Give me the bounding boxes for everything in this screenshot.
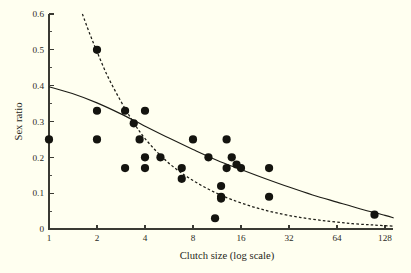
y-tick-label: 0 [39,224,44,234]
x-axis-ticks [49,225,385,230]
data-point [265,193,273,201]
data-point [130,119,138,127]
data-point [228,153,236,161]
x-tick-label: 64 [332,233,342,243]
data-point [141,153,149,161]
dashed-fit-curve [82,14,393,226]
tick-labels-group: 1248163264128 00.10.20.30.40.50.6 [33,9,393,243]
data-point [141,164,149,172]
x-tick-label: 8 [191,233,196,243]
data-point [93,135,101,143]
data-point [204,153,212,161]
data-point [237,164,245,172]
chart-figure: 1248163264128 00.10.20.30.40.50.6 Clutch… [0,0,411,273]
y-tick-label: 0.3 [33,117,45,127]
x-axis-tick-labels: 1248163264128 [47,233,393,243]
x-tick-label: 4 [143,233,148,243]
data-point [93,46,101,54]
data-point [93,107,101,115]
data-point [217,194,225,202]
y-tick-label: 0.5 [33,45,45,55]
x-axis-title: Clutch size (log scale) [180,250,275,262]
data-point [45,135,53,143]
data-point [178,164,186,172]
x-tick-label: 32 [284,233,294,243]
y-axis-tick-labels: 00.10.20.30.40.50.6 [33,9,45,234]
data-point [223,135,231,143]
y-tick-label: 0.4 [33,81,45,91]
data-point [136,135,144,143]
x-tick-label: 1 [47,233,52,243]
data-point [141,107,149,115]
x-tick-label: 2 [95,233,100,243]
data-point [217,182,225,190]
y-tick-label: 0.2 [33,153,45,163]
x-tick-label: 128 [378,233,392,243]
data-point [370,211,378,219]
scatter-plot-svg: 1248163264128 00.10.20.30.40.50.6 Clutch… [0,0,411,273]
data-point [121,107,129,115]
data-point [178,175,186,183]
data-point [189,135,197,143]
x-tick-label: 16 [236,233,246,243]
data-points-group [45,46,379,223]
data-point [223,164,231,172]
data-point [156,153,164,161]
data-point [121,164,129,172]
data-point [265,164,273,172]
y-axis-title: Sex ratio [13,103,24,141]
data-point [211,214,219,222]
y-axis-ticks [49,14,54,229]
y-tick-label: 0.1 [33,188,45,198]
y-tick-label: 0.6 [33,9,45,19]
